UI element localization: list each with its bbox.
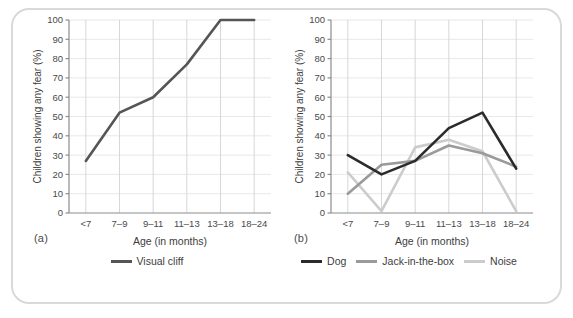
legend-item[interactable]: Visual cliff xyxy=(111,256,184,267)
gridlines xyxy=(331,20,533,213)
x-tick-label: <7 xyxy=(80,218,91,229)
legend-b: DogJack-in-the-boxNoise xyxy=(275,256,543,267)
y-tick-label: 60 xyxy=(52,92,63,103)
y-tick-label: 80 xyxy=(314,53,325,64)
x-tick-label: 9–11 xyxy=(405,218,425,229)
y-tick-label: 40 xyxy=(314,130,325,141)
legend-swatch-icon xyxy=(301,260,322,264)
y-tick-label: 70 xyxy=(52,72,63,83)
y-tick-label: 100 xyxy=(309,14,325,25)
series-line xyxy=(86,20,254,161)
series-line xyxy=(348,140,516,211)
y-axis-title: Children showing any fear (%) xyxy=(294,50,305,184)
y-tick-label: 0 xyxy=(58,207,63,218)
line-chart-b: 0102030405060708090100<77–99–1111–1313–1… xyxy=(275,0,543,250)
panel-label-a: (a) xyxy=(34,232,48,244)
legend-item[interactable]: Noise xyxy=(464,256,517,267)
panel-label-b: (b) xyxy=(294,232,308,244)
x-tick-label: 18–24 xyxy=(503,218,529,229)
figure-container: 0102030405060708090100<77–99–1111–1313–1… xyxy=(0,0,573,318)
legend-swatch-icon xyxy=(464,260,485,264)
x-tick-label: <7 xyxy=(342,218,353,229)
gridlines xyxy=(69,20,271,213)
y-axis-title: Children showing any fear (%) xyxy=(32,50,43,184)
y-tick-label: 90 xyxy=(314,34,325,45)
x-axis-title: Age (in months) xyxy=(133,235,207,247)
x-tick-label: 18–24 xyxy=(241,218,267,229)
y-tick-label: 40 xyxy=(52,130,63,141)
x-axis-title: Age (in months) xyxy=(395,235,469,247)
y-tick-label: 20 xyxy=(314,169,325,180)
line-chart-a: 0102030405060708090100<77–99–1111–1313–1… xyxy=(13,0,281,250)
legend-label: Jack-in-the-box xyxy=(382,256,454,267)
y-tick-label: 80 xyxy=(52,53,63,64)
legend-label: Noise xyxy=(490,256,517,267)
x-tick-label: 7–9 xyxy=(112,218,128,229)
legend-item[interactable]: Dog xyxy=(301,256,346,267)
legend-swatch-icon xyxy=(111,260,132,264)
legend-label: Visual cliff xyxy=(137,256,184,267)
x-tick-label: 11–13 xyxy=(174,218,200,229)
y-tick-label: 10 xyxy=(314,188,325,199)
x-tick-label: 7–9 xyxy=(374,218,390,229)
legend-a: Visual cliff xyxy=(13,256,281,267)
x-tick-label: 11–13 xyxy=(436,218,462,229)
chart-panel-a: 0102030405060708090100<77–99–1111–1313–1… xyxy=(13,0,281,296)
y-tick-label: 0 xyxy=(320,207,325,218)
legend-label: Dog xyxy=(327,256,346,267)
legend-item[interactable]: Jack-in-the-box xyxy=(356,256,454,267)
y-tick-label: 60 xyxy=(314,92,325,103)
y-tick-label: 30 xyxy=(52,150,63,161)
y-tick-label: 10 xyxy=(52,188,63,199)
chart-panel-b: 0102030405060708090100<77–99–1111–1313–1… xyxy=(275,0,543,296)
y-tick-label: 30 xyxy=(314,150,325,161)
y-tick-label: 50 xyxy=(314,111,325,122)
y-tick-label: 70 xyxy=(314,72,325,83)
x-tick-label: 13–18 xyxy=(207,218,233,229)
y-tick-label: 20 xyxy=(52,169,63,180)
legend-swatch-icon xyxy=(356,260,377,264)
x-tick-label: 9–11 xyxy=(143,218,163,229)
y-tick-label: 90 xyxy=(52,34,63,45)
x-tick-label: 13–18 xyxy=(469,218,495,229)
y-tick-label: 100 xyxy=(47,14,63,25)
y-tick-label: 50 xyxy=(52,111,63,122)
